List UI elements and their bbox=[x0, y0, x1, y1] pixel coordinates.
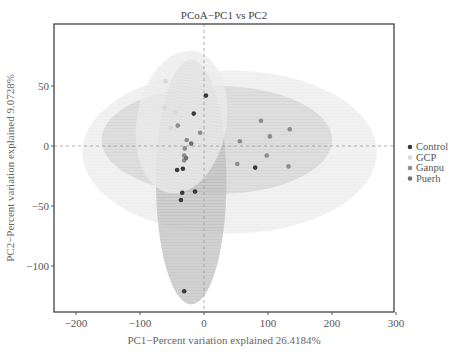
point-control bbox=[180, 191, 185, 196]
x-tick-label: −200 bbox=[65, 317, 88, 329]
point-ganpu bbox=[198, 131, 203, 136]
y-tick-label: −100 bbox=[26, 260, 49, 272]
legend-item-gcp: GCP bbox=[408, 152, 437, 163]
point-control bbox=[204, 93, 209, 98]
point-ganpu bbox=[238, 139, 243, 144]
point-ganpu bbox=[287, 127, 292, 132]
y-axis-label: PC2−Percent variation explained 9.0728% bbox=[4, 74, 16, 262]
legend-marker-icon bbox=[408, 155, 413, 160]
y-tick-label: 0 bbox=[44, 140, 50, 152]
legend-item-puerh: Puerh bbox=[408, 173, 442, 184]
point-control bbox=[179, 198, 184, 203]
y-tick-label: −50 bbox=[32, 200, 50, 212]
legend-item-ganpu: Ganpu bbox=[408, 162, 445, 173]
legend-marker-icon bbox=[408, 176, 413, 181]
chart-title: PCoA−PC1 vs PC2 bbox=[181, 9, 267, 21]
point-control bbox=[191, 111, 196, 116]
point-ganpu bbox=[183, 146, 188, 151]
point-ganpu bbox=[184, 138, 189, 143]
point-gcp bbox=[173, 110, 178, 115]
point-ganpu bbox=[264, 153, 269, 158]
point-puerh bbox=[184, 156, 189, 161]
x-tick-label: 200 bbox=[324, 317, 341, 329]
point-gcp bbox=[162, 105, 167, 110]
legend-item-control: Control bbox=[408, 141, 448, 152]
y-tick-label: 50 bbox=[38, 80, 50, 92]
point-control bbox=[181, 167, 186, 172]
x-tick-label: 100 bbox=[260, 317, 277, 329]
point-ganpu bbox=[235, 162, 240, 167]
x-tick-label: 300 bbox=[388, 317, 405, 329]
point-puerh bbox=[189, 141, 194, 146]
confidence-ellipses bbox=[82, 43, 376, 304]
x-tick-label: 0 bbox=[201, 317, 207, 329]
legend-label: Ganpu bbox=[416, 162, 445, 173]
x-axis-label: PC1−Percent variation explained 26.4184% bbox=[127, 334, 320, 346]
point-gcp bbox=[163, 79, 168, 84]
legend-label: Puerh bbox=[416, 173, 441, 184]
point-ganpu bbox=[268, 134, 273, 139]
y-axis-ticks: 500−50−100 bbox=[26, 80, 54, 272]
point-control bbox=[182, 289, 187, 294]
legend: ControlGCPGanpuPuerh bbox=[408, 141, 448, 184]
legend-label: Control bbox=[416, 141, 448, 152]
legend-marker-icon bbox=[408, 166, 413, 171]
legend-marker-icon bbox=[408, 145, 413, 150]
point-control bbox=[175, 168, 180, 173]
legend-label: GCP bbox=[416, 152, 437, 163]
x-tick-label: −100 bbox=[129, 317, 152, 329]
point-control bbox=[253, 165, 258, 170]
point-control bbox=[193, 189, 198, 194]
point-ganpu bbox=[286, 164, 291, 169]
x-axis-ticks: −200−1000100200300 bbox=[65, 312, 405, 329]
pcoa-chart: PCoA−PC1 vs PC2 −200−1000100200300 500−5… bbox=[0, 0, 456, 352]
point-ganpu bbox=[259, 119, 264, 124]
point-ganpu bbox=[175, 123, 180, 128]
point-gcp bbox=[168, 126, 173, 131]
